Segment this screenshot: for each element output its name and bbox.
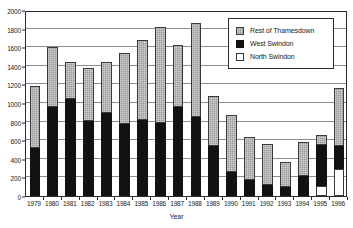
bar-segment[interactable] <box>226 172 237 196</box>
bar-segment[interactable] <box>83 121 94 196</box>
white-swatch <box>236 53 244 61</box>
legend-label: North Swindon <box>250 53 295 61</box>
black-swatch <box>236 40 244 48</box>
bar-group[interactable] <box>191 11 202 196</box>
legend-item[interactable]: West Swindon <box>236 37 327 50</box>
bar-segment[interactable] <box>316 186 327 196</box>
bar-group[interactable] <box>65 11 76 196</box>
y-axis: 0200400600800100012001400160018002000 <box>0 0 25 197</box>
y-axis-tick-label: 1200 <box>7 82 21 89</box>
x-axis-tick-mark <box>293 197 294 200</box>
bar-segment[interactable] <box>334 146 345 169</box>
bar-segment[interactable] <box>298 176 309 196</box>
legend-label: West Swindon <box>250 40 293 48</box>
bar-segment[interactable] <box>226 115 237 173</box>
chart-legend: Rest of ThamesdownWest SwindonNorth Swin… <box>228 18 334 69</box>
bar-segment[interactable] <box>137 120 148 196</box>
bar-group[interactable] <box>83 11 94 196</box>
bar-segment[interactable] <box>47 107 58 196</box>
bar-segment[interactable] <box>298 142 309 176</box>
bar-group[interactable] <box>173 11 184 196</box>
x-axis-tick-label: 1985 <box>134 199 148 208</box>
x-axis-tick-label: 1979 <box>27 199 41 208</box>
bar-segment[interactable] <box>119 53 130 124</box>
bar-segment[interactable] <box>155 123 166 196</box>
x-axis-tick-label: 1980 <box>45 199 59 208</box>
bar-segment[interactable] <box>155 27 166 124</box>
bar-group[interactable] <box>155 11 166 196</box>
bar-segment[interactable] <box>101 113 112 196</box>
legend-item[interactable]: Rest of Thamesdown <box>236 24 327 37</box>
bar-segment[interactable] <box>30 86 41 147</box>
x-axis-tick-mark <box>114 197 115 200</box>
x-axis-tick-mark <box>186 197 187 200</box>
bar-group[interactable] <box>30 11 41 196</box>
x-axis-tick-mark <box>347 197 348 200</box>
bar-segment[interactable] <box>262 185 273 196</box>
x-axis-tick-label: 1991 <box>242 199 256 208</box>
x-axis-tick-label: 1995 <box>313 199 327 208</box>
bar-group[interactable] <box>119 11 130 196</box>
x-axis-tick-mark <box>204 197 205 200</box>
gray-textured-swatch <box>236 27 244 35</box>
y-axis-tick-label: 400 <box>11 156 21 163</box>
x-axis-tick-label: 1988 <box>188 199 202 208</box>
bar-segment[interactable] <box>262 144 273 185</box>
x-axis-tick-mark <box>240 197 241 200</box>
x-axis-tick-label: 1983 <box>99 199 113 208</box>
x-axis-title: Year <box>0 212 353 221</box>
bar-group[interactable] <box>334 11 345 196</box>
bar-segment[interactable] <box>244 137 255 180</box>
bar-segment[interactable] <box>173 45 184 107</box>
x-axis-tick-label: 1996 <box>331 199 345 208</box>
x-axis-tick-label: 1984 <box>117 199 131 208</box>
bar-segment[interactable] <box>191 117 202 197</box>
y-axis-tick-label: 200 <box>11 175 21 182</box>
bar-segment[interactable] <box>208 146 219 196</box>
bar-segment[interactable] <box>316 135 327 145</box>
bar-segment[interactable] <box>316 145 327 186</box>
stacked-bar-chart: 0200400600800100012001400160018002000 19… <box>0 0 353 228</box>
bar-segment[interactable] <box>208 96 219 146</box>
bar-segment[interactable] <box>83 68 94 121</box>
bar-segment[interactable] <box>191 23 202 116</box>
x-axis-tick-mark <box>329 197 330 200</box>
bar-segment[interactable] <box>334 169 345 196</box>
y-axis-tick-label: 600 <box>11 138 21 145</box>
bar-segment[interactable] <box>47 47 58 107</box>
legend-item[interactable]: North Swindon <box>236 50 327 63</box>
y-axis-tick-label: 1000 <box>7 101 21 108</box>
x-axis-tick-label: 1993 <box>278 199 292 208</box>
bar-group[interactable] <box>137 11 148 196</box>
x-axis-tick-mark <box>61 197 62 200</box>
bar-segment[interactable] <box>137 40 148 120</box>
x-axis-tick-label: 1981 <box>63 199 77 208</box>
x-axis-tick-mark <box>97 197 98 200</box>
bar-group[interactable] <box>47 11 58 196</box>
x-axis-tick-label: 1990 <box>224 199 238 208</box>
x-axis-tick-mark <box>258 197 259 200</box>
bar-group[interactable] <box>101 11 112 196</box>
bar-group[interactable] <box>208 11 219 196</box>
bar-segment[interactable] <box>334 88 345 146</box>
x-axis-tick-mark <box>132 197 133 200</box>
legend-label: Rest of Thamesdown <box>250 27 314 35</box>
y-axis-tick-label: 1800 <box>7 26 21 33</box>
bar-segment[interactable] <box>280 162 291 187</box>
bar-segment[interactable] <box>30 148 41 196</box>
x-axis-tick-label: 1994 <box>295 199 309 208</box>
y-axis-tick-label: 800 <box>11 119 21 126</box>
bar-segment[interactable] <box>280 187 291 196</box>
bar-segment[interactable] <box>244 180 255 196</box>
bar-segment[interactable] <box>173 107 184 196</box>
y-axis-tick-label: 2000 <box>7 8 21 15</box>
bar-segment[interactable] <box>65 62 76 99</box>
x-axis-tick-mark <box>222 197 223 200</box>
x-axis-tick-label: 1982 <box>81 199 95 208</box>
bar-segment[interactable] <box>101 62 112 113</box>
x-axis-tick-mark <box>150 197 151 200</box>
bar-segment[interactable] <box>119 124 130 196</box>
bar-segment[interactable] <box>65 99 76 196</box>
x-axis-tick-label: 1986 <box>152 199 166 208</box>
x-axis: 1979198019811982198319841985198619871988… <box>25 199 347 211</box>
